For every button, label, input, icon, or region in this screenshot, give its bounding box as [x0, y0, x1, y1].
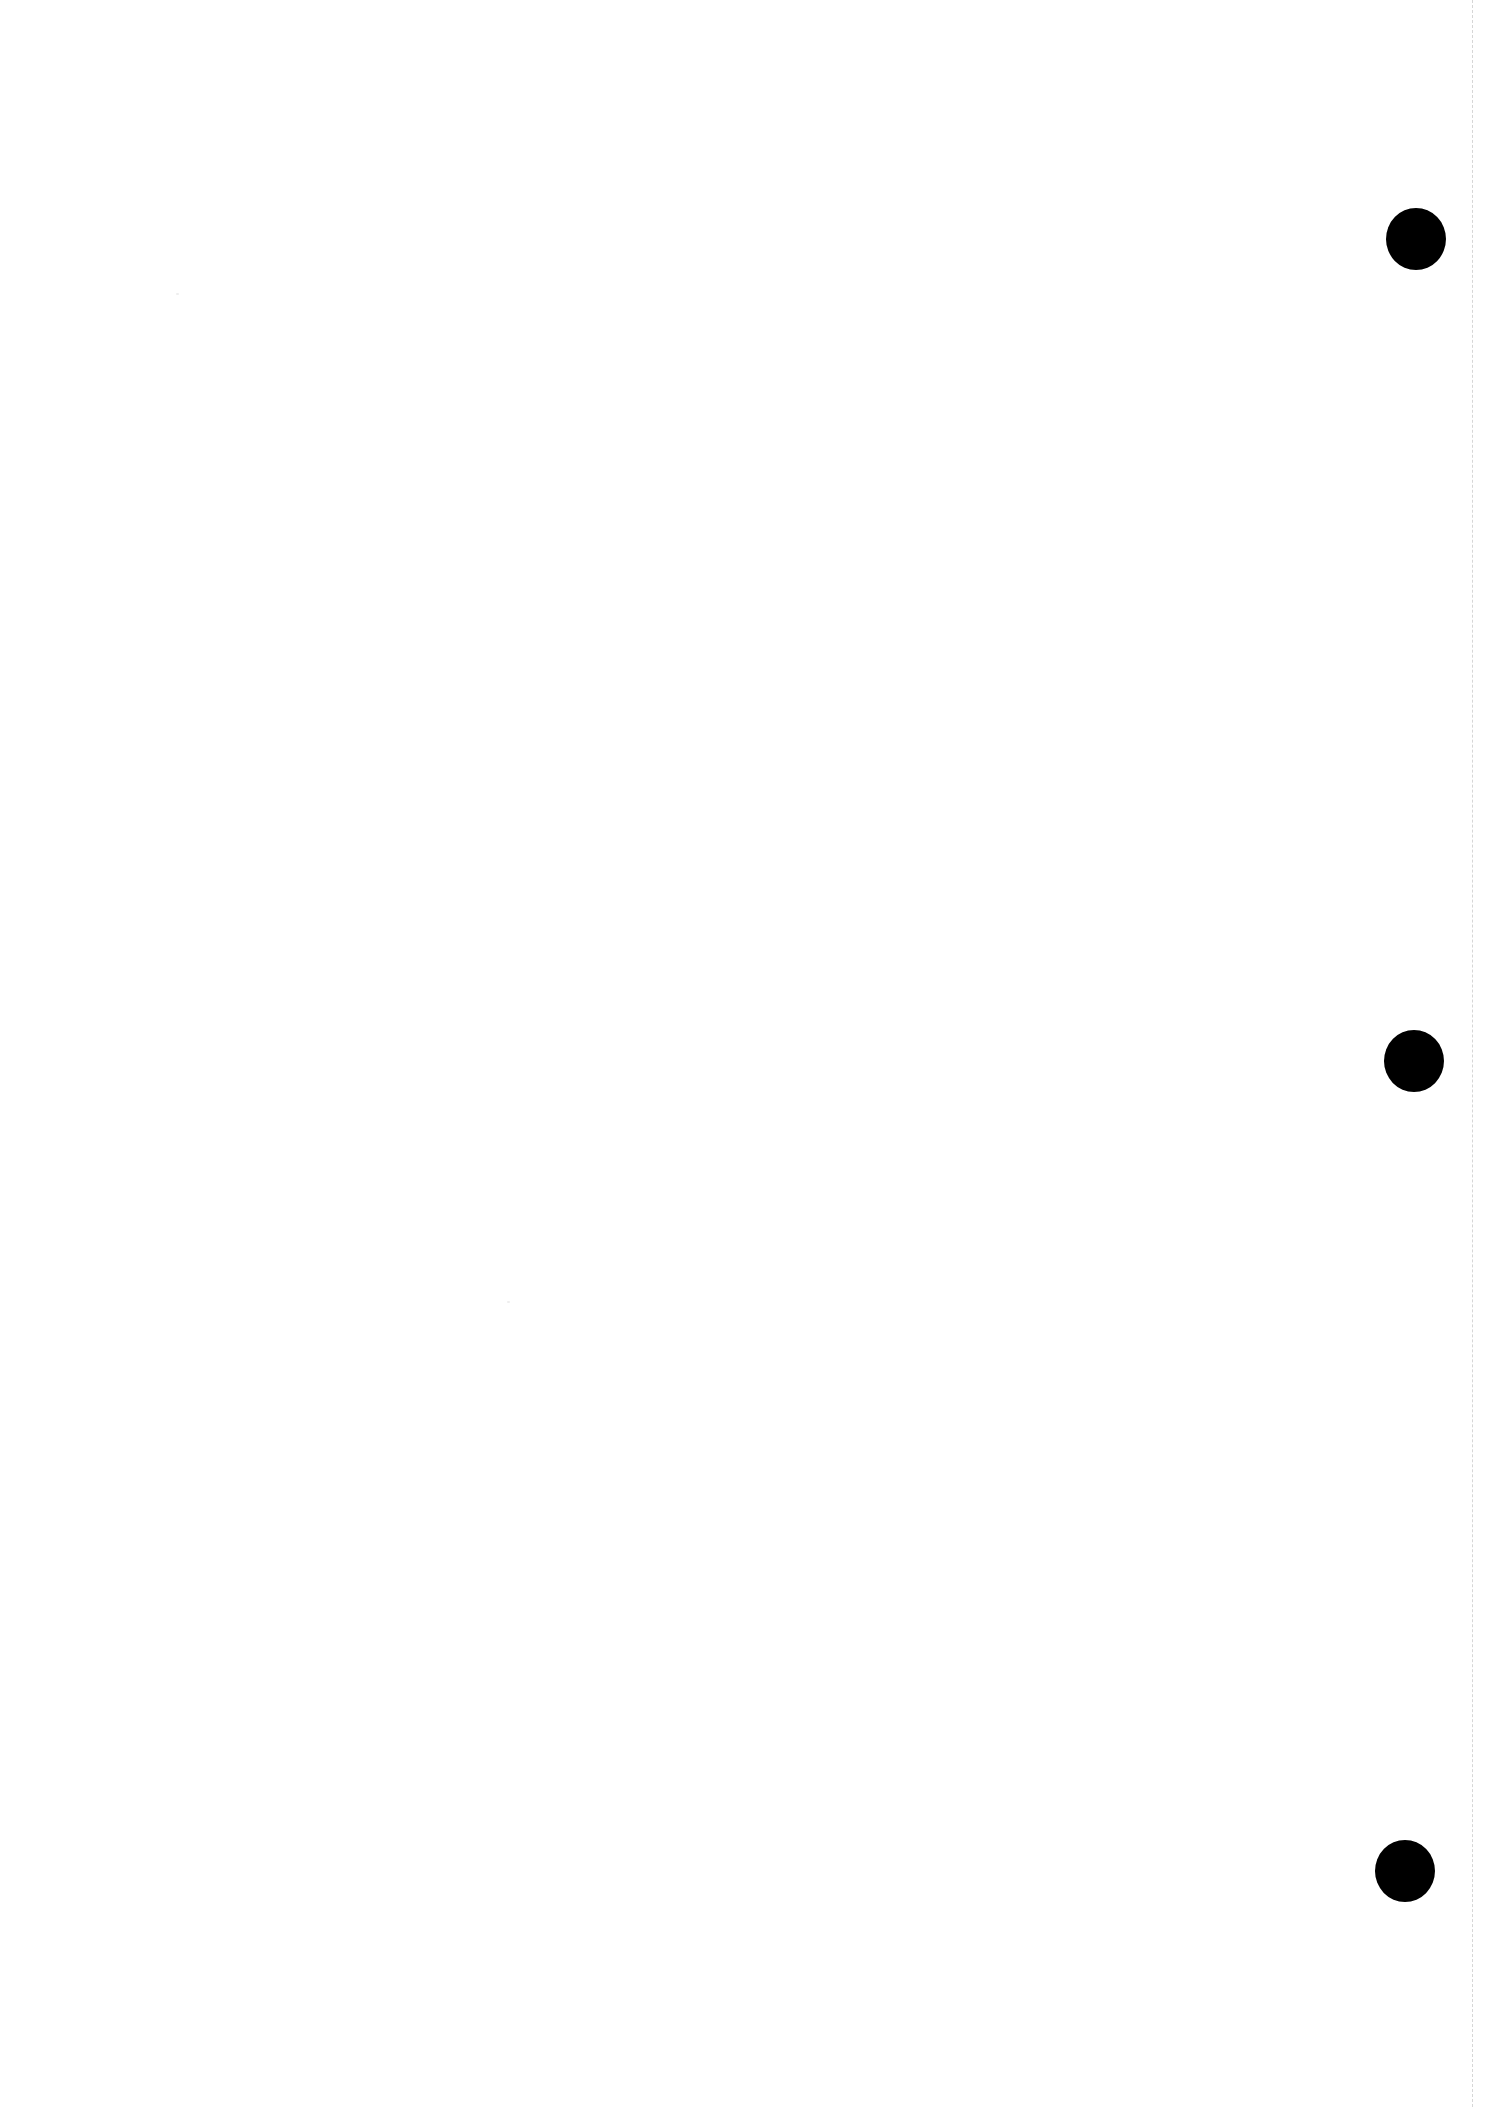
punch-hole-top — [1386, 208, 1446, 270]
scan-speck — [507, 1301, 510, 1303]
page-edge-line — [1472, 0, 1473, 2107]
scan-speck — [176, 293, 179, 295]
scanned-page — [0, 0, 1494, 2107]
punch-hole-middle — [1384, 1030, 1444, 1092]
punch-hole-bottom — [1375, 1840, 1435, 1902]
